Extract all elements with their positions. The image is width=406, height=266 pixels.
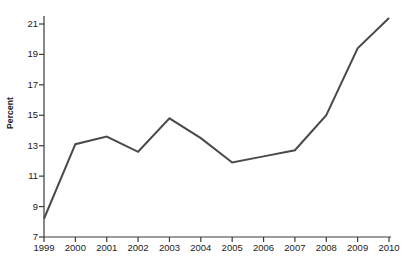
- axis-lines: [44, 16, 391, 237]
- axis-tick-marks: [39, 24, 389, 242]
- line-chart: Percent 79111315171921 19992000200120022…: [0, 0, 406, 266]
- data-series-line: [44, 18, 389, 219]
- plot-area: [0, 0, 406, 266]
